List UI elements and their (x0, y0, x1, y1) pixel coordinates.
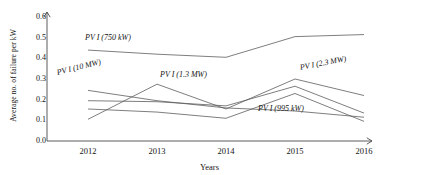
data-series-group (88, 35, 364, 122)
series-label: PV I (1.3 MW) (160, 70, 207, 79)
data-series-line (88, 90, 364, 117)
x-tick-label: 2013 (137, 147, 177, 156)
data-series-line (88, 93, 364, 121)
x-tick-label: 2014 (206, 147, 246, 156)
y-tick-label: 0.0 (20, 137, 46, 145)
series-label: PV I (750 kW) (85, 33, 131, 42)
x-tick-label: 2012 (68, 147, 108, 156)
y-tick-label: 0.2 (20, 96, 46, 104)
x-tick-label: 2015 (275, 147, 315, 156)
y-tick-label: 0.1 (20, 116, 46, 124)
series-label: PV I (995 kW) (258, 104, 304, 113)
y-tick-label: 0.6 (20, 13, 46, 21)
y-axis-tick-labels: 0.0 0.1 0.2 0.3 0.4 0.5 0.6 (18, 0, 46, 175)
axes (44, 12, 372, 144)
x-tick-label: 2016 (344, 147, 384, 156)
x-axis-title: Years (180, 162, 240, 172)
y-tick-label: 0.4 (20, 54, 46, 62)
y-axis-title: Average no. of failure per kW (9, 29, 18, 122)
y-tick-label: 0.3 (20, 75, 46, 83)
y-tick-label: 0.5 (20, 34, 46, 42)
x-axis-line (47, 138, 372, 144)
chart-figure: Average no. of failure per kW 0.0 0.1 0.… (0, 0, 424, 175)
